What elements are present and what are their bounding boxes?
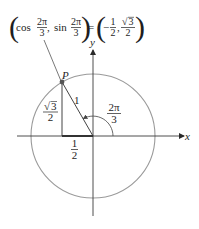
height-denominator: 2 xyxy=(48,111,54,123)
angle-label: 2π 3 xyxy=(107,101,121,125)
sin-fraction-denominator: 3 xyxy=(74,27,79,38)
cos-fraction-denominator: 3 xyxy=(40,27,45,38)
base-label: 1 2 xyxy=(71,137,78,161)
y-value-radicand: 3 xyxy=(129,16,134,27)
base-denominator: 2 xyxy=(72,149,78,161)
cos-fraction-numerator: 2π xyxy=(37,16,47,27)
y-value-radical: √ xyxy=(122,16,128,27)
equals-sign: = xyxy=(88,21,94,33)
angle-numerator: 2π xyxy=(108,101,120,113)
sin-fraction-numerator: 2π xyxy=(71,16,81,27)
coordinate-equation: ( cos 2π 3 , sin 2π 3 ) = ( − 1 2 , √ 3 … xyxy=(9,10,145,44)
equation-comma-2: , xyxy=(117,21,120,33)
radius-hypotenuse xyxy=(62,82,93,136)
x-value-numerator: 1 xyxy=(111,16,116,27)
y-value-denominator: 2 xyxy=(126,27,131,38)
sin-word: sin xyxy=(54,21,67,33)
radius-label: 1 xyxy=(74,94,80,106)
base-numerator: 1 xyxy=(72,137,78,149)
equation-close-paren-right: ) xyxy=(135,10,145,44)
equation-comma-1: , xyxy=(47,21,50,33)
unit-circle-diagram: ( cos 2π 3 , sin 2π 3 ) = ( − 1 2 , √ 3 … xyxy=(0,0,199,229)
point-p-label: P xyxy=(61,69,69,81)
height-label: √ 3 2 xyxy=(43,100,58,123)
cos-word: cos xyxy=(16,21,31,33)
angle-denominator: 3 xyxy=(111,113,117,125)
x-value-minus-sign: − xyxy=(103,21,109,33)
x-axis-label: x xyxy=(184,130,190,142)
y-axis-label: y xyxy=(89,36,95,48)
angle-arc-arrow xyxy=(84,116,114,136)
x-value-denominator: 2 xyxy=(111,27,116,38)
leader-line xyxy=(44,40,61,81)
